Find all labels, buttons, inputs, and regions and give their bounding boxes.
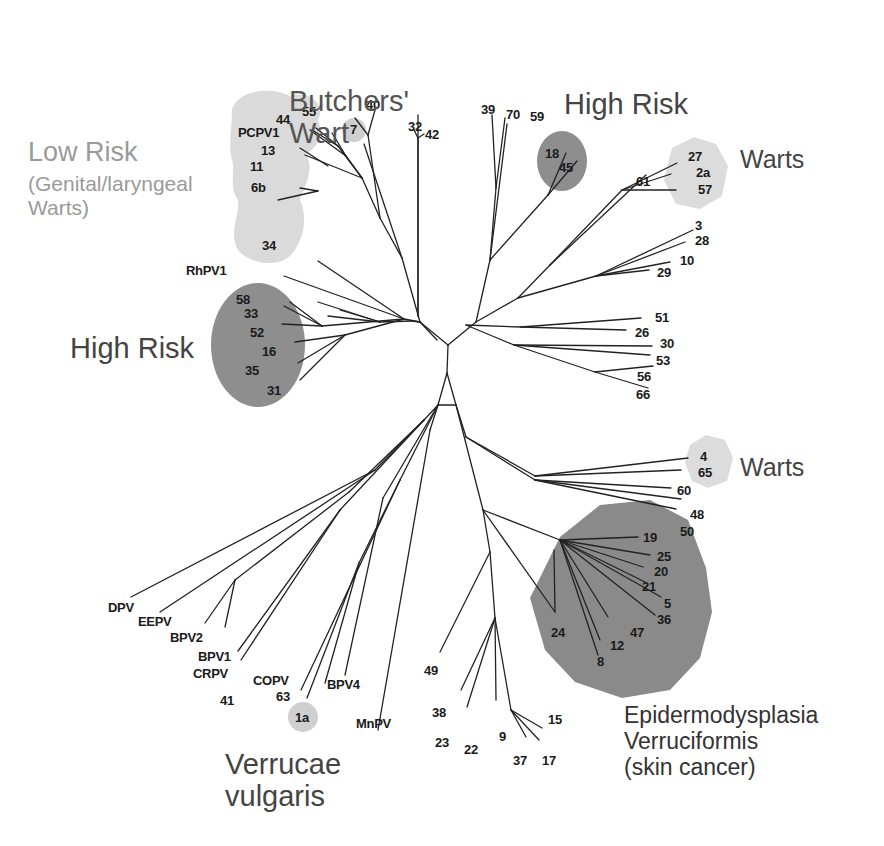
- leaf-label: 16: [262, 345, 276, 358]
- group-label-epidermodysplasia: Epidermodysplasia Verruciformis (skin ca…: [624, 703, 818, 780]
- leaf-label: EEPV: [138, 615, 171, 628]
- group-label-warts-mid: Warts: [740, 453, 804, 481]
- tree-branch: [461, 618, 495, 690]
- leaf-label: 56: [637, 370, 651, 383]
- leaf-label: 9: [499, 730, 506, 743]
- leaf-label: 48: [690, 508, 704, 521]
- tree-branch: [300, 188, 318, 191]
- tree-branch: [345, 498, 383, 675]
- tree-branch: [440, 552, 490, 652]
- leaf-label: 47: [630, 626, 644, 639]
- tree-branch: [235, 492, 349, 580]
- leaf-label: 27: [688, 150, 702, 163]
- tree-branch: [521, 318, 641, 327]
- leaf-label: 61: [636, 175, 650, 188]
- group-label-high-risk-top: High Risk: [564, 88, 688, 120]
- tree-branch: [483, 510, 490, 552]
- tree-branch: [560, 540, 598, 655]
- leaf-label: 8: [597, 655, 604, 668]
- tree-branch: [160, 470, 375, 612]
- tree-branch: [284, 276, 404, 319]
- tree-branch: [490, 552, 495, 618]
- tree-branch: [131, 470, 375, 597]
- leaf-label: 38: [432, 706, 446, 719]
- tree-branch: [359, 480, 400, 563]
- tree-branch: [466, 325, 514, 345]
- leaf-label: RhPV1: [186, 264, 226, 277]
- tree-branch: [290, 302, 322, 326]
- leaf-label: 32: [408, 120, 422, 133]
- leaf-label: 30: [660, 337, 674, 350]
- leaf-label: 5: [664, 597, 671, 610]
- leaf-label: 13: [261, 144, 275, 157]
- leaf-label: 4: [700, 450, 707, 463]
- tree-branch: [282, 324, 322, 326]
- tree-branch: [278, 191, 318, 200]
- tree-branch: [378, 430, 430, 730]
- tree-branch: [495, 618, 496, 700]
- tree-branch: [518, 276, 596, 298]
- leaf-label: 57: [698, 183, 712, 196]
- leaf-label: 3: [695, 219, 702, 232]
- tree-branch: [560, 540, 655, 615]
- group-label-verrucae-vulgaris: Verrucae vulgaris: [225, 748, 341, 813]
- tree-branch: [495, 618, 511, 710]
- leaf-label: BPV2: [170, 631, 203, 644]
- leaf-label: 70: [506, 108, 520, 121]
- leaf-label: COPV: [253, 674, 289, 687]
- tree-branch: [438, 373, 447, 405]
- group-label-low-risk: Low Risk: [28, 137, 138, 167]
- leaf-label: 50: [680, 525, 694, 538]
- leaf-label: 23: [435, 736, 449, 749]
- leaf-label: 60: [677, 484, 691, 497]
- leaf-label: DPV: [108, 601, 134, 614]
- leaf-label: 39: [481, 103, 495, 116]
- tree-branch: [521, 327, 626, 330]
- leaf-label: 63: [276, 690, 290, 703]
- leaf-label: 6b: [251, 181, 266, 194]
- tree-branch: [456, 405, 483, 510]
- tree-branch: [420, 322, 437, 340]
- tree-branch: [514, 345, 650, 355]
- leaf-label: 53: [656, 354, 670, 367]
- phylogenetic-tree-figure: 40732424455PCPV113116b34RhPV158335216353…: [0, 0, 884, 846]
- tree-branch: [295, 335, 345, 342]
- leaf-label: 1a: [295, 711, 309, 724]
- tree-branch: [490, 195, 548, 260]
- tree-branch: [318, 261, 404, 319]
- tree-branch: [467, 618, 495, 707]
- leaf-label: 45: [559, 161, 573, 174]
- tree-branch: [418, 134, 424, 138]
- group-label-warts-top: Warts: [740, 145, 804, 173]
- tree-branch: [400, 405, 438, 480]
- tree-branch: [325, 563, 359, 683]
- group-label-butchers-wart: Butchers' Wart: [289, 85, 409, 150]
- tree-branch: [550, 175, 646, 265]
- leaf-label: 25: [657, 550, 671, 563]
- tree-branch: [514, 345, 652, 346]
- leaf-label: 11: [250, 160, 263, 173]
- leaf-label: 22: [464, 743, 478, 756]
- leaf-label: 58: [236, 293, 250, 306]
- leaf-label: BPV4: [327, 678, 360, 691]
- tree-branch: [476, 260, 490, 322]
- tree-branch: [340, 420, 424, 510]
- leaf-label: 18: [545, 147, 559, 160]
- leaf-label: 20: [654, 565, 668, 578]
- tree-branch: [402, 258, 420, 322]
- leaf-label: 37: [513, 754, 527, 767]
- leaf-label: 36: [657, 613, 671, 626]
- leaf-label: PCPV1: [238, 126, 279, 139]
- leaf-label: 52: [250, 326, 264, 339]
- leaf-label: MnPV: [356, 717, 391, 730]
- leaf-label: 31: [267, 384, 281, 397]
- group-label-low-risk-sub: (Genital/laryngeal Warts): [28, 172, 193, 219]
- tree-branch: [550, 190, 622, 265]
- leaf-label: 59: [530, 110, 544, 123]
- tree-branch: [466, 437, 535, 480]
- leaf-label: 21: [642, 580, 656, 593]
- leaf-label: 10: [680, 254, 694, 267]
- tree-branch: [535, 480, 681, 499]
- tree-branch: [483, 510, 560, 540]
- leaf-label: 34: [262, 239, 276, 252]
